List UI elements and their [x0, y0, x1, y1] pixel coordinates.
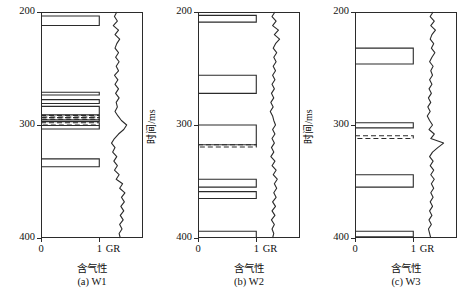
gas-interval: [355, 136, 413, 139]
gas-interval: [355, 48, 413, 64]
x-axis-title: 含气性: [335, 260, 475, 275]
panel-caption-w3: (c) W3: [335, 276, 475, 287]
y-axis-title: 时间/ms: [300, 97, 315, 157]
gas-interval: [355, 175, 413, 187]
x-tick-label: 0: [340, 243, 370, 254]
gas-interval: [355, 123, 413, 128]
x-tick-mark: [413, 238, 414, 242]
y-tick-mark: [351, 125, 355, 126]
x-tick-mark: [355, 238, 356, 242]
y-tick-label: 200: [307, 6, 349, 16]
well-log-figure: 200300400时间/ms01GR含气性(a) W1200300400时间/m…: [0, 0, 475, 293]
gas-interval: [355, 231, 413, 237]
gr-curve: [427, 12, 443, 238]
y-tick-mark: [351, 12, 355, 13]
y-tick-label: 400: [307, 232, 349, 242]
gr-axis-label: GR: [420, 243, 435, 254]
